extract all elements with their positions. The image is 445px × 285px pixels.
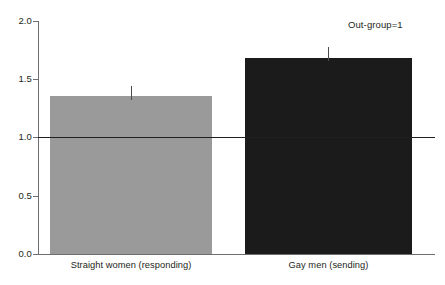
- bar-chart: 2.0 1.5 1.0 0.5 0.0 Straight women (resp…: [0, 0, 445, 285]
- annotation-out-group: Out-group=1: [348, 19, 403, 31]
- x-axis-label-straight-women: Straight women (responding): [50, 259, 212, 271]
- x-axis-line: [38, 254, 435, 255]
- reference-line-1-0: [38, 137, 435, 138]
- y-tick-mark-2-0: [33, 21, 38, 22]
- y-tick-mark-1-5: [33, 79, 38, 80]
- y-tick-label-0-5: 0.5: [18, 191, 32, 201]
- x-axis-label-gay-men: Gay men (sending): [245, 259, 412, 271]
- bar-straight-women: [50, 96, 212, 254]
- bar-gay-men: [245, 58, 412, 254]
- error-bar-gay-men: [328, 47, 329, 61]
- y-axis-line: [38, 21, 39, 255]
- error-bar-straight-women: [131, 86, 132, 100]
- y-tick-mark-0-5: [33, 196, 38, 197]
- y-tick-label-0-0: 0.0: [18, 249, 32, 259]
- y-tick-label-2-0: 2.0: [18, 16, 32, 26]
- y-tick-label-1-0: 1.0: [18, 132, 32, 142]
- y-tick-label-1-5: 1.5: [18, 74, 32, 84]
